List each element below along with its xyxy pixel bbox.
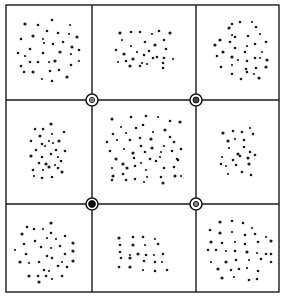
dot (251, 21, 253, 23)
dot (55, 238, 57, 240)
dot (37, 275, 40, 278)
dot (145, 254, 148, 257)
dot (163, 145, 165, 147)
dot (121, 162, 124, 165)
dot (257, 76, 260, 79)
dot (163, 128, 166, 131)
dot (57, 265, 60, 268)
dot (162, 62, 165, 65)
dot (154, 261, 157, 264)
dot (259, 33, 261, 35)
dot (249, 127, 251, 129)
dot (253, 73, 255, 75)
dot (57, 32, 60, 35)
dot (110, 117, 113, 120)
dot (26, 226, 29, 229)
dot (162, 67, 165, 70)
dot (231, 64, 233, 66)
dot (46, 30, 49, 33)
dot (57, 156, 59, 158)
dot (235, 259, 238, 262)
outer-border (6, 5, 279, 292)
dot (70, 64, 73, 67)
dot (231, 220, 234, 223)
dot (43, 269, 46, 272)
dot (234, 47, 237, 50)
dot (37, 24, 40, 27)
dot (270, 253, 273, 256)
dot (149, 137, 152, 140)
dot (216, 267, 219, 270)
dot (234, 250, 237, 253)
dot (41, 177, 44, 180)
dot (27, 274, 30, 277)
dot (227, 26, 230, 29)
cell-middle-right (220, 127, 257, 176)
grid-lines (6, 5, 279, 292)
dot (260, 258, 263, 261)
dot (247, 35, 250, 38)
dot (139, 137, 142, 140)
dot (125, 132, 127, 134)
dot (78, 60, 80, 62)
dot (209, 229, 212, 232)
dot (210, 261, 212, 263)
dot (238, 268, 241, 271)
dot (46, 255, 49, 258)
dot (242, 222, 245, 225)
dot (31, 70, 34, 73)
dot (58, 69, 61, 72)
dot (149, 158, 152, 161)
dot (70, 45, 73, 48)
dot (168, 31, 171, 34)
dot (58, 50, 61, 53)
dot (69, 24, 71, 26)
dot (118, 266, 121, 269)
dot (14, 249, 16, 251)
dot (146, 63, 148, 65)
dot (33, 228, 36, 231)
dot (37, 61, 40, 64)
dot (232, 159, 235, 162)
marker-bottom-right-icon (190, 198, 202, 210)
dot (172, 58, 174, 60)
dot (51, 133, 53, 135)
dot (246, 60, 249, 63)
cell-middle-left (29, 122, 66, 179)
dot (231, 34, 233, 36)
dot (41, 143, 44, 146)
dot (153, 254, 155, 256)
dot (61, 275, 64, 278)
dot (246, 45, 248, 47)
dot (243, 146, 246, 149)
dot (131, 243, 134, 246)
dot (216, 55, 219, 58)
dot (245, 68, 248, 71)
dot (157, 116, 159, 118)
dot (20, 65, 23, 68)
dot (71, 241, 74, 244)
dot (135, 127, 138, 130)
dot (53, 59, 56, 62)
dot (142, 124, 145, 127)
dot (42, 128, 45, 131)
dot (140, 162, 142, 164)
dot (18, 260, 21, 263)
dot (51, 257, 54, 260)
dot (230, 55, 233, 58)
dot (221, 242, 224, 245)
dot (123, 148, 125, 150)
dot (163, 57, 166, 60)
dot (234, 36, 237, 39)
dot (254, 233, 257, 236)
dot (109, 150, 112, 153)
dot (129, 254, 131, 256)
dot (270, 261, 273, 264)
dot (70, 53, 72, 55)
dot (114, 157, 117, 160)
dot (38, 134, 41, 137)
cell-bottom-left (14, 221, 75, 283)
dot (241, 171, 244, 174)
dot (55, 149, 58, 152)
dot (29, 154, 32, 157)
